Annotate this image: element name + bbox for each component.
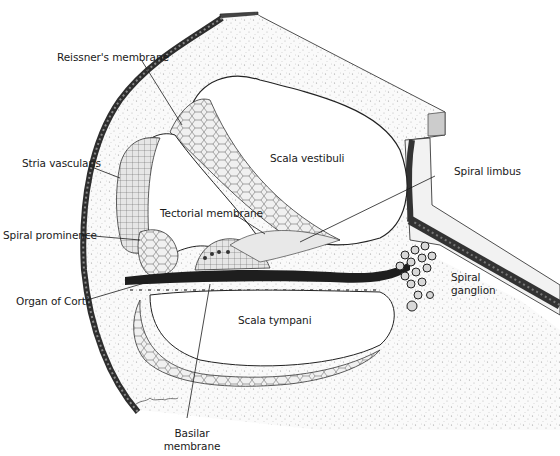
label-spiral-ganglion-line1: Spiral [451,271,480,283]
label-stria-vascularis: Stria vascularis [22,157,101,169]
label-organ-of-corti: Organ of Corti [16,295,89,307]
label-spiral-prominence: Spiral prominence [3,229,97,241]
label-basilar-membrane-line2: membrane [162,440,222,452]
label-reissners-membrane: Reissner's membrane [57,51,169,63]
label-scala-vestibuli: Scala vestibuli [270,152,344,164]
label-spiral-limbus: Spiral limbus [454,165,521,177]
label-scala-tympani: Scala tympani [238,314,312,326]
label-tectorial-membrane: Tectorial membrane [160,207,263,219]
label-spiral-ganglion-line2: ganglion [451,284,496,296]
cochlea-cross-section-illustration [0,0,560,456]
label-basilar-membrane-line1: Basilar [162,427,222,439]
